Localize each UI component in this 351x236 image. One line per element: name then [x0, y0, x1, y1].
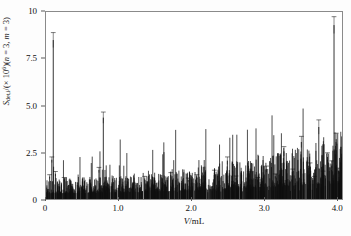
y-tick-label: 5.0	[26, 101, 37, 110]
y-tick-label: 2.5	[26, 148, 37, 157]
x-tick-mark	[264, 197, 265, 201]
x-tick-label: 0	[43, 203, 47, 213]
y-axis-n-value: = 3,	[1, 39, 11, 57]
y-tick-label: 7.5	[26, 54, 37, 63]
data-series-spikes	[46, 12, 342, 199]
y-axis-divider: /(× 10	[1, 70, 11, 91]
y-axis-symbol: S	[1, 101, 11, 105]
plot-area	[45, 11, 343, 200]
y-axis-tail: )(	[1, 61, 11, 67]
y-axis-m-symbol: m	[1, 33, 11, 39]
x-tick-mark	[118, 197, 119, 201]
x-tick-label: 4.0	[332, 203, 343, 213]
y-axis-exponent: 6	[1, 67, 7, 70]
y-tick-label: 10	[28, 7, 37, 16]
y-axis-title: Sdet,i/(× 106)(n = 3, m = 3)	[1, 0, 11, 151]
x-tick-mark	[337, 197, 338, 201]
x-tick-mark	[191, 197, 192, 201]
x-axis: 01.02.03.04.0	[0, 201, 351, 217]
x-axis-title: V/mL	[45, 216, 343, 226]
y-axis-m-value: = 3)	[1, 17, 11, 33]
chart-figure: 02.55.07.510 Sdet,i/(× 106)(n = 3, m = 3…	[0, 0, 351, 236]
x-tick-label: 1.0	[113, 203, 124, 213]
x-tick-label: 3.0	[259, 203, 270, 213]
y-axis-n-symbol: n	[1, 57, 11, 61]
y-axis-subscript: det,i	[5, 90, 11, 101]
x-axis-unit: /mL	[189, 216, 204, 226]
x-tick-label: 2.0	[186, 203, 197, 213]
x-tick-mark	[45, 197, 46, 201]
